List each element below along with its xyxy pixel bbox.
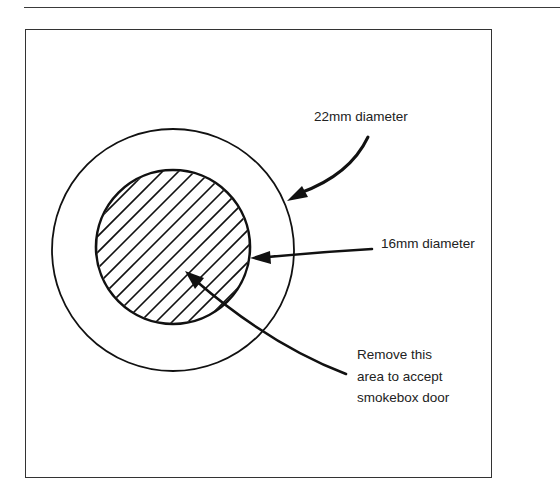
label-22mm-diameter: 22mm diameter [314, 106, 408, 128]
arrow-remove-area [185, 271, 346, 374]
callout-line-3: smokebox door [357, 387, 449, 409]
arrow-22mm [287, 137, 368, 201]
callout-line-2: area to accept [357, 366, 449, 388]
arrow-16mm [250, 249, 372, 264]
label-16mm-diameter: 16mm diameter [381, 233, 475, 255]
outer-circle-22mm [52, 129, 294, 371]
callout-text: Remove this area to accept smokebox door [357, 344, 449, 409]
smokebox-diagram [0, 0, 560, 504]
hatched-area [40, 114, 290, 344]
callout-line-1: Remove this [357, 344, 449, 366]
